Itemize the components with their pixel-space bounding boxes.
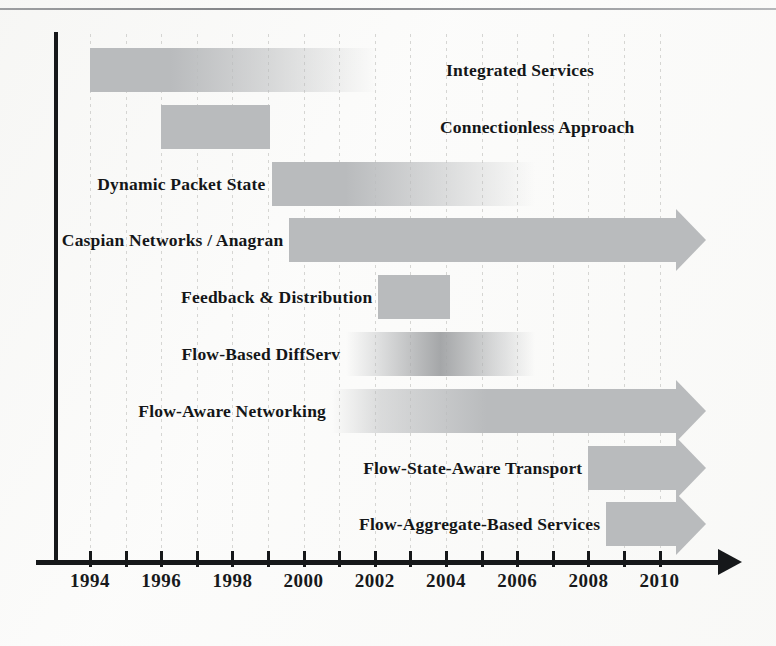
x-axis-tick-label: 1996 xyxy=(141,570,181,592)
x-axis-tick-label: 2002 xyxy=(355,570,395,592)
timeline-bar-fill xyxy=(272,162,535,206)
timeline-bar xyxy=(272,162,535,206)
timeline-bar xyxy=(332,389,676,433)
x-axis-tick xyxy=(89,551,92,567)
timeline-bar-label: Flow-State-Aware Transport xyxy=(363,457,582,478)
x-axis-tick xyxy=(481,551,484,567)
x-axis-tick xyxy=(125,551,128,567)
timeline-bar-arrowhead xyxy=(676,493,706,555)
timeline-bar xyxy=(588,446,676,490)
x-axis-tick xyxy=(196,551,199,567)
timeline-bar xyxy=(606,502,676,546)
x-axis-tick xyxy=(409,551,412,567)
x-axis-tick xyxy=(160,551,163,567)
timeline-bar-fill xyxy=(346,332,535,376)
timeline-bar xyxy=(346,332,535,376)
timeline-chart: Integrated ServicesConnectionless Approa… xyxy=(0,0,776,646)
timeline-bar-label: Integrated Services xyxy=(446,60,594,81)
y-axis-line xyxy=(54,32,58,562)
timeline-bar-fill xyxy=(378,275,449,319)
timeline-bar-arrowhead xyxy=(676,437,706,499)
x-axis-tick-label: 2006 xyxy=(497,570,537,592)
x-axis-tick xyxy=(659,551,662,567)
x-axis-tick xyxy=(552,551,555,567)
timeline-bar-fill xyxy=(588,446,676,490)
timeline-bar-fill xyxy=(606,502,676,546)
timeline-bar-label: Dynamic Packet State xyxy=(97,173,265,194)
timeline-bar-label: Flow-Based DiffServ xyxy=(181,344,340,365)
arrow-right-icon xyxy=(718,549,742,575)
timeline-bar-fill xyxy=(332,389,676,433)
x-axis-tick xyxy=(338,551,341,567)
timeline-bar-fill xyxy=(161,105,270,149)
timeline-bar-fill xyxy=(289,218,676,262)
timeline-bar-arrowhead xyxy=(676,380,706,442)
x-axis-tick xyxy=(267,551,270,567)
x-axis-tick-label: 2000 xyxy=(284,570,324,592)
timeline-bar-label: Feedback & Distribution xyxy=(181,287,372,308)
timeline-bar-label: Flow-Aware Networking xyxy=(138,400,326,421)
timeline-bar-label: Connectionless Approach xyxy=(440,116,634,137)
timeline-bar-label: Caspian Networks / Anagran xyxy=(62,230,284,251)
gridline xyxy=(90,34,91,554)
x-axis-tick xyxy=(516,551,519,567)
timeline-bar-fill xyxy=(90,48,378,92)
x-axis-tick-label: 2004 xyxy=(426,570,466,592)
x-axis-tick-label: 2010 xyxy=(640,570,680,592)
x-axis-tick-label: 2008 xyxy=(568,570,608,592)
gridline xyxy=(126,34,127,554)
timeline-bar xyxy=(289,218,676,262)
x-axis-tick xyxy=(623,551,626,567)
timeline-bar-label: Flow-Aggregate-Based Services xyxy=(359,514,600,535)
x-axis-tick xyxy=(587,551,590,567)
x-axis-tick xyxy=(374,551,377,567)
x-axis-tick xyxy=(303,551,306,567)
x-axis-tick xyxy=(231,551,234,567)
timeline-bar xyxy=(90,48,378,92)
timeline-bar-arrowhead xyxy=(676,209,706,271)
timeline-bar xyxy=(378,275,449,319)
timeline-bar xyxy=(161,105,270,149)
x-axis-tick xyxy=(445,551,448,567)
x-axis-tick-label: 1998 xyxy=(212,570,252,592)
x-axis-tick-label: 1994 xyxy=(70,570,110,592)
